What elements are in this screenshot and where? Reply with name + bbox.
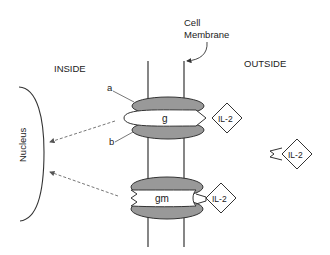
signal-arrow-lower (50, 172, 118, 196)
cell-membrane-label-line1: Cell (184, 17, 200, 28)
receptor-label-gm: gm (155, 193, 169, 204)
receptor-label-g: g (162, 113, 168, 124)
subunit-a-leader (113, 91, 134, 102)
membrane-pointer-arrow (187, 42, 207, 61)
receptor-complex-g: g IL-2 (124, 97, 242, 139)
outside-label: OUTSIDE (244, 58, 286, 69)
il2-label-free: IL-2 (288, 150, 303, 160)
subunit-b-label: b (109, 136, 114, 147)
inside-label: INSIDE (54, 63, 86, 74)
il2-label-upper: IL-2 (218, 114, 233, 124)
receptor-complex-gm: gm IL-2 (131, 177, 236, 219)
il2-label-lower: IL-2 (212, 194, 227, 204)
cell-membrane-label-line2: Membrane (184, 29, 229, 40)
subunit-b-leader (115, 132, 133, 142)
signal-arrow-upper (50, 121, 115, 142)
free-il2-ligand: IL-2 (270, 139, 312, 169)
subunit-a-label: a (107, 82, 113, 93)
nucleus-label: Nucleus (17, 127, 28, 162)
free-il2-tail (270, 148, 282, 160)
il2-receptor-diagram: Cell Membrane INSIDE OUTSIDE Nucleus g I… (0, 0, 330, 255)
